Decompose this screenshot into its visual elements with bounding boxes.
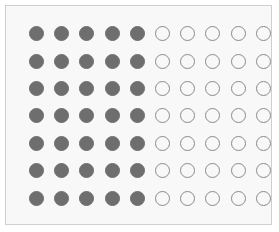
open-circle-icon [180, 54, 195, 69]
dot-cell [24, 75, 49, 102]
open-circle-icon [231, 81, 246, 96]
dot-cell [125, 185, 150, 212]
open-circle-icon [205, 54, 220, 69]
dot-cell [175, 185, 200, 212]
dot-cell [150, 20, 175, 47]
open-circle-icon [180, 191, 195, 206]
open-circle-icon [205, 191, 220, 206]
filled-circle-icon [105, 108, 120, 123]
dot-cell [49, 157, 74, 184]
dot-cell [175, 102, 200, 129]
filled-circle-icon [105, 163, 120, 178]
open-circle-icon [180, 108, 195, 123]
dot-cell [74, 130, 99, 157]
dot-cell [74, 20, 99, 47]
dot-cell [100, 102, 125, 129]
open-circle-icon [205, 163, 220, 178]
open-circle-icon [231, 191, 246, 206]
dot-cell [49, 75, 74, 102]
filled-circle-icon [79, 81, 94, 96]
dot-cell [125, 102, 150, 129]
filled-circle-icon [54, 136, 69, 151]
filled-circle-icon [79, 136, 94, 151]
filled-circle-icon [79, 26, 94, 41]
dot-cell [150, 130, 175, 157]
dot-cell [24, 20, 49, 47]
dot-cell [125, 47, 150, 74]
dot-cell [125, 20, 150, 47]
filled-circle-icon [130, 108, 145, 123]
dot-cell [74, 102, 99, 129]
open-circle-icon [155, 136, 170, 151]
dot-cell [226, 75, 251, 102]
filled-circle-icon [29, 26, 44, 41]
dot-cell [150, 102, 175, 129]
dot-cell [74, 157, 99, 184]
open-circle-icon [256, 108, 271, 123]
filled-circle-icon [54, 163, 69, 178]
open-circle-icon [256, 26, 271, 41]
open-circle-icon [205, 136, 220, 151]
open-circle-icon [205, 26, 220, 41]
dot-cell [24, 102, 49, 129]
filled-circle-icon [29, 108, 44, 123]
filled-circle-icon [130, 81, 145, 96]
dot-cell [200, 185, 225, 212]
dot-cell [150, 75, 175, 102]
dot-cell [125, 157, 150, 184]
dot-cell [100, 75, 125, 102]
plot-frame [5, 5, 272, 225]
filled-circle-icon [79, 54, 94, 69]
filled-circle-icon [29, 54, 44, 69]
filled-circle-icon [105, 54, 120, 69]
dot-cell [125, 130, 150, 157]
open-circle-icon [205, 81, 220, 96]
dot-cell [100, 185, 125, 212]
open-circle-icon [231, 108, 246, 123]
dot-cell [150, 185, 175, 212]
dot-cell [251, 102, 276, 129]
filled-circle-icon [29, 163, 44, 178]
dot-cell [251, 75, 276, 102]
dot-cell [175, 20, 200, 47]
filled-circle-icon [29, 136, 44, 151]
filled-circle-icon [130, 136, 145, 151]
filled-circle-icon [130, 54, 145, 69]
dot-cell [74, 47, 99, 74]
dot-cell [49, 20, 74, 47]
filled-circle-icon [54, 81, 69, 96]
dot-cell [125, 75, 150, 102]
open-circle-icon [155, 163, 170, 178]
open-circle-icon [180, 26, 195, 41]
dot-cell [175, 47, 200, 74]
dot-cell [74, 185, 99, 212]
dot-cell [251, 20, 276, 47]
filled-circle-icon [130, 163, 145, 178]
open-circle-icon [180, 136, 195, 151]
dot-cell [49, 102, 74, 129]
open-circle-icon [205, 108, 220, 123]
open-circle-icon [155, 54, 170, 69]
dot-cell [150, 47, 175, 74]
dot-cell [49, 130, 74, 157]
open-circle-icon [180, 81, 195, 96]
filled-circle-icon [54, 191, 69, 206]
dot-cell [226, 102, 251, 129]
filled-circle-icon [79, 163, 94, 178]
dot-cell [100, 157, 125, 184]
dot-cell [200, 20, 225, 47]
dot-cell [150, 157, 175, 184]
figure-root [0, 0, 279, 232]
dot-cell [251, 130, 276, 157]
filled-circle-icon [105, 26, 120, 41]
dot-cell [200, 102, 225, 129]
dot-cell [24, 47, 49, 74]
open-circle-icon [231, 163, 246, 178]
open-circle-icon [155, 26, 170, 41]
dot-cell [251, 47, 276, 74]
dot-cell [49, 47, 74, 74]
dot-cell [100, 130, 125, 157]
dot-cell [226, 20, 251, 47]
open-circle-icon [231, 26, 246, 41]
dot-cell [49, 185, 74, 212]
